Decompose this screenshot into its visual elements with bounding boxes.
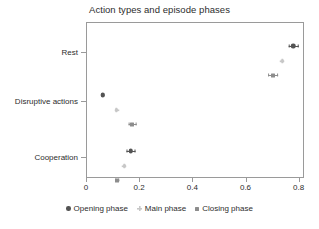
error-bar-cap-left	[288, 45, 289, 48]
error-bar-cap-right	[134, 150, 135, 153]
legend-item[interactable]: Closing phase	[195, 204, 253, 213]
circle-marker	[291, 44, 296, 49]
x-axis-tick-label: 0.8	[293, 183, 304, 192]
legend-item[interactable]: Opening phase	[66, 204, 128, 213]
error-bar-cap-left	[128, 123, 129, 126]
chart-figure: Action types and episode phases RestDisr…	[0, 0, 319, 229]
chart-legend: Opening phaseMain phaseClosing phase	[0, 204, 319, 213]
plus-marker	[280, 59, 285, 64]
plus-marker	[114, 108, 119, 113]
y-axis-tick-label: Disruptive actions	[15, 97, 78, 106]
square-marker	[195, 207, 199, 211]
y-axis-tick	[81, 101, 86, 102]
circle-marker	[101, 93, 106, 98]
data-point	[280, 57, 285, 66]
y-axis-tick-label: Rest	[62, 48, 78, 57]
x-axis-tick	[86, 178, 87, 182]
x-axis-tick-label: 0	[84, 183, 88, 192]
legend-item-label: Main phase	[145, 204, 186, 213]
data-point	[271, 71, 275, 80]
plus-marker	[122, 164, 127, 169]
y-axis-tick	[81, 157, 86, 158]
y-axis-tick-label: Cooperation	[34, 153, 78, 162]
x-axis-tick-label: 0.2	[134, 183, 145, 192]
data-point	[129, 147, 134, 156]
x-axis-tick	[192, 178, 193, 182]
circle-marker	[66, 206, 71, 211]
x-axis-tick	[246, 178, 247, 182]
square-marker	[271, 73, 275, 77]
data-points-layer	[87, 23, 303, 177]
plus-marker	[137, 206, 142, 211]
chart-title: Action types and episode phases	[0, 4, 319, 15]
data-point	[291, 42, 296, 51]
data-point	[101, 91, 106, 100]
legend-item[interactable]: Main phase	[137, 204, 186, 213]
square-marker	[115, 178, 119, 182]
x-axis-tick	[139, 178, 140, 182]
error-bar-cap-right	[277, 74, 278, 77]
data-point	[130, 120, 134, 129]
data-point	[114, 106, 119, 115]
x-axis-tick	[299, 178, 300, 182]
error-bar-cap-left	[268, 74, 269, 77]
x-axis-tick-label: 0.6	[240, 183, 251, 192]
y-axis-tick	[81, 52, 86, 53]
legend-item-label: Opening phase	[74, 204, 128, 213]
error-bar-cap-right	[297, 45, 298, 48]
x-axis-tick-label: 0.4	[187, 183, 198, 192]
circle-marker	[129, 149, 134, 154]
legend-item-label: Closing phase	[202, 204, 253, 213]
data-point	[115, 176, 119, 185]
data-point	[122, 162, 127, 171]
error-bar-cap-right	[136, 123, 137, 126]
plot-area	[86, 22, 304, 178]
square-marker	[130, 122, 134, 126]
